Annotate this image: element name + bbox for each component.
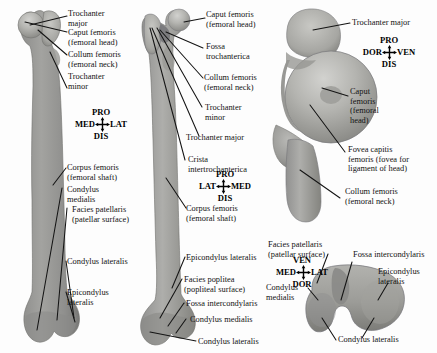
compass-left: PRO MED LAT DIS [64,108,138,142]
label-caput-femoris-right: Caput femoris (femoral head) [350,87,379,125]
label-epicondylus-lateralis-mid: Epicondylus lateralis [186,253,256,263]
compass-right-top-east: VEN [397,48,415,57]
compass-right-top-west: DOR [363,48,382,57]
compass-middle-north: PRO [216,170,234,179]
label-collum-femoris-mid: Collum femoris (femoral neck) [204,73,257,92]
label-epicondylus-lateralis-rb: Epicondylus lateralis [378,267,420,286]
compass-middle: PRO LAT MED DIS [188,170,262,204]
compass-right-top: PRO DOR VEN DIS [346,36,432,70]
compass-right-bottom-west: MED [276,268,296,277]
label-epicondylus-lateralis-left: Epicondylus lateralis [67,288,109,307]
label-condylus-medialis-mid: Condylus medialis [190,315,253,325]
label-collum-femoris-left: Collum femoris (femoral neck) [68,50,121,69]
label-condylus-medialis-left: Condylus medialis [67,185,99,204]
compass-middle-east: MED [231,182,251,191]
compass-right-top-north: PRO [380,36,398,45]
compass-cross-icon [95,117,110,132]
label-caput-femoris-left: Caput femoris (femoral head) [68,28,118,47]
label-trochanter-major-right: Trochanter major [352,18,410,28]
label-fossa-intercondylaris-rb: Fossa intercondylaris [353,250,424,260]
label-condylus-lateralis-rb: Condylus lateralis [338,335,399,345]
compass-right-bottom-south: DOR [292,280,311,289]
label-collum-femoris-right: Collum femoris (femoral neck) [345,187,398,206]
label-caput-femoris-mid: Caput femoris (femoral head) [206,10,256,29]
compass-right-bottom-east: LAT [311,268,328,277]
label-facies-poplitea-mid: Facies poplitea (popliteal surface) [184,275,245,294]
label-trochanter-major-left: Trochanter major [68,9,104,28]
label-trochanter-minor-left: Trochanter minor [68,72,104,91]
label-corpus-femoris-mid: Corpus femoris (femoral shaft) [186,204,238,223]
label-fossa-trochanterica-mid: Fossa trochanterica [206,42,250,61]
compass-left-east: LAT [110,120,127,129]
label-condylus-lateralis-mid: Condylus lateralis [198,337,259,347]
compass-left-west: MED [75,120,95,129]
compass-left-south: DIS [94,132,108,141]
compass-right-top-south: DIS [382,60,396,69]
compass-right-bottom-north: VEN [293,256,311,265]
label-condylus-lateralis-left: Condylus lateralis [67,257,128,267]
label-facies-patellaris-left: Facies patellaris (patellar surface) [72,205,129,224]
compass-middle-south: DIS [218,194,232,203]
label-fovea-capitis-right: Fovea capitis femoris (fovea for ligamen… [348,145,409,174]
label-fossa-intercondylaris-mid: Fossa intercondylaris [186,299,257,309]
label-trochanter-major-mid: Trochanter major [186,133,244,143]
compass-right-bottom: VEN MED LAT DOR [265,256,339,290]
compass-cross-icon [296,265,311,280]
figure-plate: Trochanter major Caput femoris (femoral … [0,0,437,353]
compass-cross-icon [216,179,231,194]
compass-left-north: PRO [92,108,110,117]
label-corpus-femoris-left: Corpus femoris (femoral shaft) [67,163,119,182]
compass-middle-west: LAT [199,182,216,191]
compass-cross-icon [382,45,397,60]
label-trochanter-minor-mid: Trochanter minor [205,103,241,122]
